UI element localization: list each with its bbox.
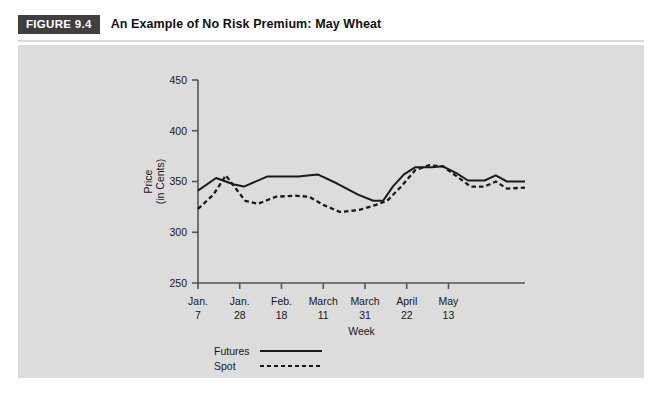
y-tick-label: 300	[169, 226, 187, 238]
chart-labels: 250300350400450Jan.7Jan.28Feb.18March11M…	[142, 74, 459, 337]
x-tick-label-day: 18	[276, 309, 288, 321]
x-tick-label-day: 13	[443, 309, 455, 321]
chart-legend: FuturesSpot	[214, 345, 322, 372]
y-tick-label: 450	[169, 74, 187, 86]
series-line-spot	[198, 165, 525, 212]
header-divider	[18, 40, 644, 42]
x-tick-label-day: 31	[359, 309, 371, 321]
x-tick-label-day: 28	[234, 309, 246, 321]
chart-axes	[192, 80, 525, 289]
x-tick-label-day: 11	[318, 309, 329, 321]
x-tick-label-day: 22	[401, 309, 413, 321]
y-axis-title-line-1: Price	[142, 169, 154, 193]
x-tick-label-day: 7	[195, 309, 201, 321]
legend-label-spot: Spot	[214, 360, 236, 372]
figure-header: FIGURE 9.4 An Example of No Risk Premium…	[18, 14, 381, 34]
x-tick-label-month: April	[396, 295, 417, 307]
x-tick-label-month: March	[350, 295, 379, 307]
y-tick-label: 400	[169, 125, 187, 137]
figure-number-tag: FIGURE 9.4	[18, 15, 100, 34]
series-line-futures	[198, 166, 525, 201]
y-tick-label: 250	[169, 277, 187, 289]
x-tick-label-month: May	[439, 295, 460, 307]
figure-panel: 250300350400450Jan.7Jan.28Feb.18March11M…	[18, 45, 644, 378]
x-tick-label-month: Jan.	[230, 295, 250, 307]
y-axis-title-line-2: (in Cents)	[154, 159, 166, 205]
y-tick-label: 350	[169, 175, 187, 187]
line-chart: 250300350400450Jan.7Jan.28Feb.18March11M…	[18, 45, 644, 378]
legend-label-futures: Futures	[214, 345, 250, 357]
figure-title: An Example of No Risk Premium: May Wheat	[111, 17, 382, 31]
figure-page: FIGURE 9.4 An Example of No Risk Premium…	[0, 0, 662, 394]
x-axis-title: Week	[348, 325, 375, 337]
x-tick-label-month: March	[309, 295, 338, 307]
x-tick-label-month: Feb.	[271, 295, 292, 307]
chart-series	[198, 165, 525, 212]
x-tick-label-month: Jan.	[188, 295, 208, 307]
